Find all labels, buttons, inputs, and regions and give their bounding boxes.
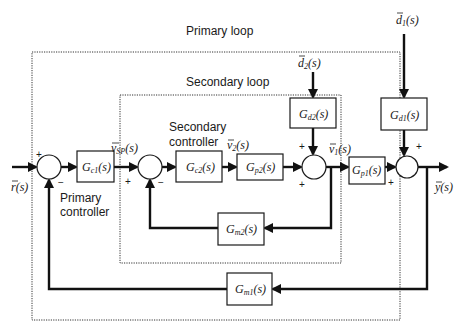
secondary-controller-label-2: controller bbox=[169, 135, 218, 149]
summing-junction-4 bbox=[396, 156, 418, 178]
block-gd1: Gd1(s) bbox=[381, 98, 427, 130]
signal-v2-label: v2(s) bbox=[227, 138, 249, 153]
sign-sum4-plus-top: + bbox=[416, 141, 422, 152]
signal-y-label: y(s) bbox=[434, 180, 453, 194]
block-gd2: Gd2(s) bbox=[290, 98, 336, 128]
primary-loop-region bbox=[32, 52, 400, 320]
block-gm1: Gm1(s) bbox=[227, 273, 272, 305]
primary-controller-label-2: controller bbox=[60, 205, 109, 219]
block-gc1: Gc1(s) bbox=[77, 151, 114, 182]
block-gc2: Gc2(s) bbox=[176, 151, 222, 182]
block-gm2: Gm2(s) bbox=[218, 213, 264, 245]
sign-sum1-minus: − bbox=[58, 177, 64, 188]
primary-loop-label: Primary loop bbox=[186, 24, 254, 38]
sign-sum4-plus-left: + bbox=[388, 177, 394, 188]
signal-d2-label: d2(s) bbox=[298, 56, 321, 71]
sign-sum2-plus: + bbox=[125, 176, 131, 187]
signal-vsp-label: vSP(s) bbox=[111, 141, 138, 156]
svg-text:d1(s): d1(s) bbox=[396, 13, 419, 28]
summing-junction-3 bbox=[302, 155, 326, 179]
signal-r-label: r(s) bbox=[11, 180, 28, 194]
primary-controller-label-1: Primary bbox=[60, 191, 101, 205]
cascade-control-diagram: Primary loop Secondary loop Secondary co… bbox=[0, 0, 464, 330]
sign-sum1-plus: + bbox=[36, 149, 42, 160]
svg-text:v1(s): v1(s) bbox=[329, 142, 351, 157]
svg-text:r(s): r(s) bbox=[11, 180, 28, 194]
sign-sum2-minus: − bbox=[158, 177, 164, 188]
summing-junction-2 bbox=[138, 155, 162, 179]
secondary-loop-label: Secondary loop bbox=[186, 75, 270, 89]
svg-text:v2(s): v2(s) bbox=[227, 138, 249, 153]
signal-d1-label: d1(s) bbox=[396, 13, 419, 28]
block-gp2: Gp2(s) bbox=[237, 154, 283, 180]
sign-sum3-plus-bottom: + bbox=[299, 179, 305, 190]
signal-v1-label: v1(s) bbox=[329, 142, 351, 157]
svg-text:d2(s): d2(s) bbox=[298, 56, 321, 71]
sign-sum3-plus-top: + bbox=[299, 141, 305, 152]
secondary-controller-label-1: Secondary bbox=[169, 120, 226, 134]
svg-text:y(s): y(s) bbox=[434, 180, 453, 194]
svg-text:vSP(s): vSP(s) bbox=[111, 141, 138, 156]
block-gp1: Gp1(s) bbox=[349, 157, 385, 184]
